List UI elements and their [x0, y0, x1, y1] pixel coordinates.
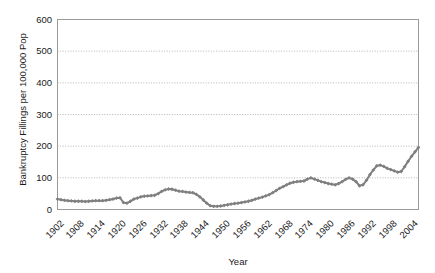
x-axis-title: Year — [57, 256, 419, 267]
x-axis-tick-labels: 1902190819141920192619321938194419501956… — [0, 0, 435, 273]
bankruptcy-filings-line-chart: Bankruptcy Fillings per 100,000 Pop 0100… — [0, 0, 435, 273]
